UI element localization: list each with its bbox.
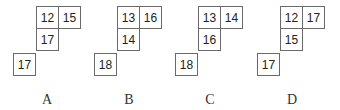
- figure-a: 12 15 17 17 A: [13, 0, 95, 110]
- cell-bottom-left: 17: [13, 53, 36, 76]
- cell-top-right: 16: [139, 6, 162, 29]
- figure-label: B: [119, 92, 139, 108]
- cell-top-left: 13: [198, 6, 221, 29]
- cell-middle: 15: [280, 28, 303, 51]
- cell-top-left: 12: [36, 6, 59, 29]
- cell-top-right: 15: [58, 6, 81, 29]
- figure-c: 13 14 16 18 C: [175, 0, 257, 110]
- cell-top-left: 13: [117, 6, 140, 29]
- cell-middle: 14: [117, 28, 140, 51]
- figure-label: C: [200, 92, 220, 108]
- cell-top-left: 12: [280, 6, 303, 29]
- cell-top-right: 17: [302, 6, 325, 29]
- cell-bottom-left: 18: [175, 53, 198, 76]
- figure-label: A: [37, 92, 57, 108]
- cell-bottom-left: 17: [257, 53, 280, 76]
- cell-top-right: 14: [220, 6, 243, 29]
- figure-d: 12 17 15 17 D: [257, 0, 339, 110]
- cell-middle: 17: [36, 28, 59, 51]
- figure-label: D: [282, 92, 302, 108]
- cell-bottom-left: 18: [94, 53, 117, 76]
- figure-b: 13 16 14 18 B: [94, 0, 176, 110]
- cell-middle: 16: [198, 28, 221, 51]
